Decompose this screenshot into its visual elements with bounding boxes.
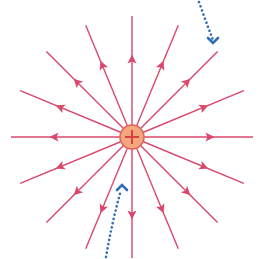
field-line [46,51,132,137]
field-line [132,51,218,137]
field-line [132,137,218,223]
field-lines-diagram [0,0,261,259]
positive-charge [120,125,144,149]
top-right-pointer [199,2,213,40]
bottom-pointer [106,190,121,257]
pointer-arrowhead-icon [117,185,127,190]
field-line [46,137,132,223]
